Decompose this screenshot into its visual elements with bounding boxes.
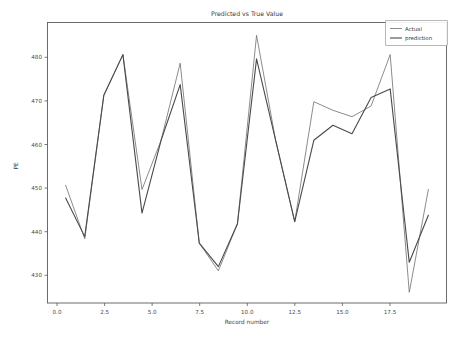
x-ticklabel: 17.5 (384, 309, 397, 315)
figure-background (0, 0, 463, 343)
legend-label-actual: Actual (405, 26, 422, 32)
y-axis-label: PE (13, 162, 19, 169)
y-ticklabel: 460 (31, 142, 42, 148)
legend[interactable]: Actual prediction (386, 21, 448, 46)
x-ticklabel: 0.0 (53, 309, 62, 315)
y-ticklabel: 430 (31, 272, 42, 278)
legend-frame (386, 21, 448, 46)
chart-title: Predicted vs True Value (211, 10, 283, 17)
y-ticklabel: 440 (31, 229, 42, 235)
y-ticklabel: 480 (31, 54, 42, 60)
x-ticklabel: 12.5 (289, 309, 302, 315)
legend-label-prediction: prediction (405, 35, 432, 42)
x-ticklabel: 10.0 (241, 309, 254, 315)
line-chart: Predicted vs True Value 480 470 460 450 … (0, 0, 463, 343)
x-ticklabel: 5.0 (148, 309, 157, 315)
x-ticklabel: 2.5 (100, 309, 109, 315)
y-ticklabel: 470 (31, 98, 42, 104)
x-ticklabel: 7.5 (195, 309, 204, 315)
x-axis-label: Record number (225, 319, 270, 325)
matplotlib-figure: Predicted vs True Value 480 470 460 450 … (0, 0, 463, 343)
x-ticklabel: 15.0 (336, 309, 349, 315)
y-ticklabel: 450 (31, 185, 42, 191)
